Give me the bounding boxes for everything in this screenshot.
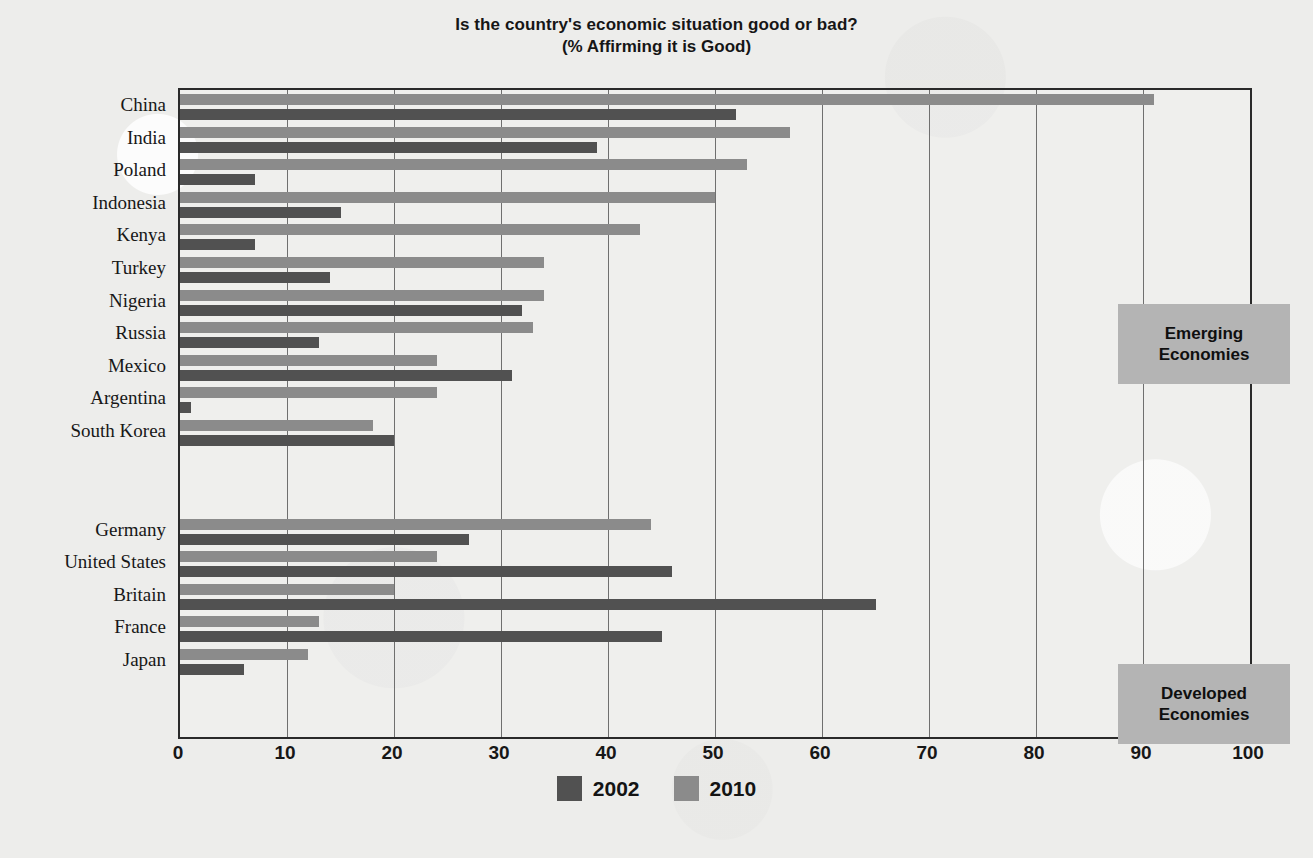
gridline-50 [715, 90, 716, 737]
category-label-argentina: Argentina [90, 388, 166, 407]
bar-britain-2002 [180, 599, 876, 610]
category-label-nigeria: Nigeria [109, 291, 166, 310]
chart-legend: 20022010 [0, 776, 1313, 801]
bar-united-states-2002 [180, 566, 672, 577]
bar-nigeria-2010 [180, 290, 544, 301]
bar-mexico-2002 [180, 370, 512, 381]
gridline-60 [822, 90, 823, 737]
bar-kenya-2010 [180, 224, 640, 235]
bar-germany-2010 [180, 519, 651, 530]
category-label-china: China [121, 95, 166, 114]
bar-indonesia-2010 [180, 192, 715, 203]
plot-area: Emerging Economies Developed Economies [178, 88, 1252, 739]
bar-poland-2002 [180, 174, 255, 185]
category-label-united-states: United States [64, 552, 166, 571]
gridline-80 [1036, 90, 1037, 737]
category-label-russia: Russia [115, 323, 166, 342]
category-label-mexico: Mexico [108, 356, 166, 375]
x-tick-60: 60 [809, 742, 830, 764]
legend-item-2010[interactable]: 2010 [674, 776, 757, 801]
bar-russia-2002 [180, 337, 319, 348]
x-tick-90: 90 [1130, 742, 1151, 764]
bar-chart: Is the country's economic situation good… [0, 0, 1313, 858]
x-tick-10: 10 [274, 742, 295, 764]
bar-japan-2010 [180, 649, 308, 660]
x-tick-30: 30 [488, 742, 509, 764]
bar-china-2010 [180, 94, 1154, 105]
chart-subtitle: (% Affirming it is Good) [0, 36, 1313, 57]
bar-mexico-2010 [180, 355, 437, 366]
bar-turkey-2002 [180, 272, 330, 283]
bar-indonesia-2002 [180, 207, 341, 218]
bar-argentina-2002 [180, 402, 191, 413]
bar-south-korea-2002 [180, 435, 394, 446]
x-tick-0: 0 [173, 742, 184, 764]
bar-france-2010 [180, 616, 319, 627]
bar-argentina-2010 [180, 387, 437, 398]
bar-china-2002 [180, 109, 736, 120]
category-label-japan: Japan [123, 650, 166, 669]
annotation-emerging-line2: Economies [1159, 345, 1250, 364]
annotation-emerging-line1: Emerging [1165, 324, 1243, 343]
legend-swatch-2010 [674, 776, 699, 801]
legend-item-2002[interactable]: 2002 [557, 776, 640, 801]
bar-india-2002 [180, 142, 597, 153]
bar-south-korea-2010 [180, 420, 373, 431]
category-label-france: France [114, 617, 166, 636]
annotation-developed-line2: Economies [1159, 705, 1250, 724]
gridline-70 [929, 90, 930, 737]
annotation-emerging-economies: Emerging Economies [1118, 304, 1290, 384]
category-label-turkey: Turkey [112, 258, 166, 277]
category-label-poland: Poland [113, 160, 166, 179]
bar-kenya-2002 [180, 239, 255, 250]
bar-turkey-2010 [180, 257, 544, 268]
x-tick-50: 50 [702, 742, 723, 764]
x-tick-20: 20 [381, 742, 402, 764]
x-tick-80: 80 [1023, 742, 1044, 764]
bar-united-states-2010 [180, 551, 437, 562]
annotation-developed-economies: Developed Economies [1118, 664, 1290, 744]
annotation-developed-line1: Developed [1161, 684, 1247, 703]
category-label-indonesia: Indonesia [92, 193, 166, 212]
bar-poland-2010 [180, 159, 747, 170]
legend-swatch-2002 [557, 776, 582, 801]
category-label-germany: Germany [95, 520, 166, 539]
bar-germany-2002 [180, 534, 469, 545]
legend-label-2002: 2002 [593, 777, 640, 801]
bar-france-2002 [180, 631, 662, 642]
category-label-south-korea: South Korea [70, 421, 166, 440]
x-tick-100: 100 [1232, 742, 1264, 764]
bar-india-2010 [180, 127, 790, 138]
category-label-kenya: Kenya [116, 225, 166, 244]
bar-nigeria-2002 [180, 305, 522, 316]
category-label-britain: Britain [113, 585, 166, 604]
gridline-90 [1143, 90, 1144, 737]
bar-russia-2010 [180, 322, 533, 333]
legend-label-2010: 2010 [710, 777, 757, 801]
x-tick-70: 70 [916, 742, 937, 764]
x-tick-40: 40 [595, 742, 616, 764]
bar-britain-2010 [180, 584, 394, 595]
chart-title: Is the country's economic situation good… [0, 14, 1313, 35]
bar-japan-2002 [180, 664, 244, 675]
category-label-india: India [127, 128, 166, 147]
